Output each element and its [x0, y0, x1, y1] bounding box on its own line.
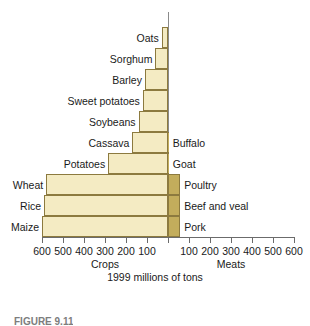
meat-label: Buffalo	[173, 137, 206, 148]
meats-axis-label: Meats	[168, 258, 294, 270]
axis-tick	[42, 238, 43, 243]
chart-row: Sweet potatoes	[0, 90, 310, 111]
crop-bar	[162, 27, 168, 48]
meat-label: Goat	[173, 158, 196, 169]
figure-number-caption: FIGURE 9.11	[14, 316, 73, 326]
crop-label: Sorghum	[110, 53, 153, 64]
chart-row: Soybeans	[0, 111, 310, 132]
crop-bar	[145, 69, 168, 90]
chart-plot-area: OatsSorghumBarleySweet potatoesSoybeansC…	[0, 0, 310, 263]
chart-row: MaizePork	[0, 216, 310, 237]
chart-row: CassavaBuffalo	[0, 132, 310, 153]
axis-tick	[231, 238, 232, 243]
meat-bar	[168, 153, 169, 174]
chart-row: Oats	[0, 27, 310, 48]
meat-label: Poultry	[184, 179, 217, 190]
axis-tick-label-meats: 300	[220, 245, 242, 257]
meat-bar	[168, 195, 180, 216]
axis-tick-label-crops: 500	[52, 245, 74, 257]
crop-label: Oats	[137, 32, 159, 43]
axis-tick	[273, 238, 274, 243]
axis-tick	[105, 238, 106, 243]
axis-tick-label-meats: 600	[283, 245, 305, 257]
axis-tick	[84, 238, 85, 243]
chart-row: WheatPoultry	[0, 174, 310, 195]
chart-row: RiceBeef and veal	[0, 195, 310, 216]
axis-tick	[126, 238, 127, 243]
axis-tick	[210, 238, 211, 243]
crop-label: Cassava	[88, 137, 129, 148]
units-caption: 1999 millions of tons	[0, 271, 310, 283]
crop-bar	[42, 216, 168, 237]
chart-row: Barley	[0, 69, 310, 90]
crop-bar	[139, 111, 168, 132]
meat-bar	[168, 132, 169, 153]
chart-row: Sorghum	[0, 48, 310, 69]
axis-tick-label-meats: 100	[178, 245, 200, 257]
crop-bar	[46, 174, 168, 195]
axis-tick-label-crops: 100	[136, 245, 158, 257]
axis-tick-label-crops: 300	[94, 245, 116, 257]
crops-axis-label: Crops	[42, 258, 168, 270]
crop-label: Potatoes	[64, 158, 105, 169]
meat-bar	[168, 174, 180, 195]
axis-tick	[189, 238, 190, 243]
axis-tick	[168, 238, 169, 243]
crop-label: Sweet potatoes	[67, 95, 139, 106]
meat-label: Pork	[184, 221, 206, 232]
axis-tick-label-crops: 400	[73, 245, 95, 257]
crop-label: Barley	[112, 74, 142, 85]
axis-tick	[63, 238, 64, 243]
axis-tick	[294, 238, 295, 243]
meat-label: Beef and veal	[184, 200, 248, 211]
axis-tick-label-crops: 600	[31, 245, 53, 257]
axis-tick-label-meats: 400	[241, 245, 263, 257]
crop-bar	[44, 195, 168, 216]
meat-bar	[168, 216, 180, 237]
axis-tick	[147, 238, 148, 243]
axis-tick-label-meats: 500	[262, 245, 284, 257]
axis-tick	[252, 238, 253, 243]
axis-tick-label-crops: 200	[115, 245, 137, 257]
crop-bar	[108, 153, 168, 174]
crop-label: Rice	[20, 200, 41, 211]
crop-label: Soybeans	[89, 116, 136, 127]
crop-bar	[143, 90, 168, 111]
crop-bar	[155, 48, 168, 69]
crop-label: Maize	[11, 221, 39, 232]
crop-label: Wheat	[13, 179, 43, 190]
axis-tick-label-meats: 200	[199, 245, 221, 257]
crop-bar	[132, 132, 168, 153]
chart-row: PotatoesGoat	[0, 153, 310, 174]
